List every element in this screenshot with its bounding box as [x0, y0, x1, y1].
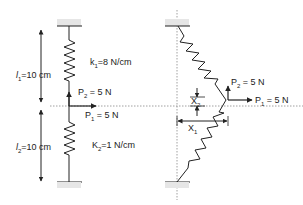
p1-label-right: P1 = 5 N [255, 96, 289, 107]
spring-k2 [64, 120, 75, 182]
bottom-support-hatch [57, 182, 81, 188]
p2-label-left: P2 = 5 N [78, 88, 112, 99]
right-spring-k1 [178, 26, 226, 100]
k2-label: K2=1 N/cm [92, 141, 135, 152]
p2-label-right: P2 = 5 N [231, 78, 265, 89]
right-spring-k2 [177, 100, 226, 182]
l1-label: l1=10 cm [16, 71, 51, 82]
spring-k1 [64, 26, 75, 88]
right-bottom-support-hatch [165, 182, 189, 188]
x1-label: X1 [188, 124, 197, 135]
top-support-hatch [57, 19, 81, 26]
right-top-support-hatch [165, 19, 189, 26]
l2-label: l2=10 cm [16, 143, 51, 154]
k1-label: k1=8 N/cm [90, 58, 132, 69]
p1-label-left: P1 = 5 N [85, 111, 119, 122]
x2-label: X2 [191, 97, 200, 108]
